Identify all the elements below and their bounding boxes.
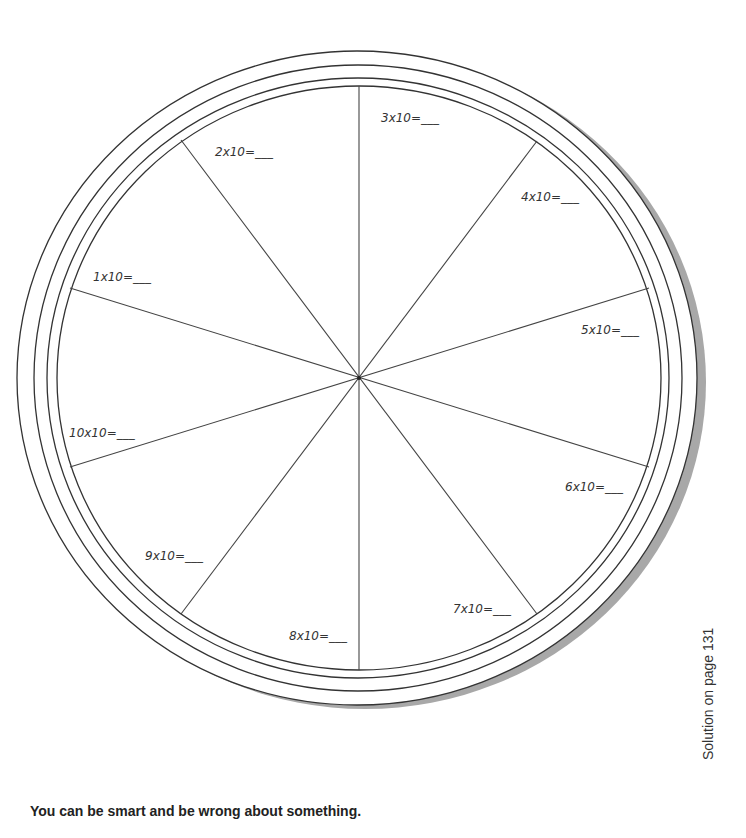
segment-label-3x10: 3x10=___ [381,111,440,125]
segment-label-9x10: 9x10=___ [145,549,204,563]
wheel-center-dot [357,376,361,380]
motivational-caption: You can be smart and be wrong about some… [30,803,361,819]
segment-label-4x10: 4x10=___ [521,190,580,204]
solution-page-note: Solution on page 131 [700,610,716,760]
segment-label-10x10: 10x10=___ [69,426,136,440]
segment-label-6x10: 6x10=___ [565,480,624,494]
segment-label-7x10: 7x10=___ [453,602,512,616]
segment-label-1x10: 1x10=___ [93,270,152,284]
multiplication-wheel: 1x10=___ 2x10=___ 3x10=___ 4x10=___ 5x10… [0,0,746,760]
segment-label-2x10: 2x10=___ [215,145,274,159]
segment-label-8x10: 8x10=___ [289,629,348,643]
segment-label-5x10: 5x10=___ [581,323,640,337]
